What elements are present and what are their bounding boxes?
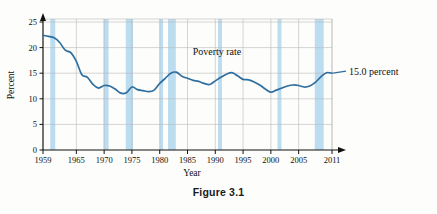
x-axis-tick-label: 1980 <box>151 155 168 165</box>
y-axis-tick-label: 20 <box>29 43 38 53</box>
axis-tick-labels-layer: 0510152025195919651970197519801985199019… <box>29 17 341 165</box>
series-label: Poverty rate <box>193 46 242 57</box>
x-axis-tick-label: 1995 <box>235 155 252 165</box>
x-axis-tick-label: 2005 <box>290 155 307 165</box>
x-axis-title: Year <box>183 168 201 178</box>
axis-ticks-layer <box>40 22 333 154</box>
axes-layer <box>40 13 346 153</box>
x-axis-tick-label: 1965 <box>68 155 85 165</box>
endpoint-label: 15.0 percent <box>349 66 399 77</box>
recession-band <box>160 19 163 150</box>
recession-band <box>315 19 324 150</box>
y-axis-arrow-icon <box>40 13 46 21</box>
x-axis-tick-label: 1959 <box>35 155 52 165</box>
x-axis-tick-label: 1975 <box>123 155 140 165</box>
x-axis-tick-label: 1970 <box>96 155 113 165</box>
recession-bands-layer <box>50 19 323 150</box>
figure-container: 0510152025195919651970197519801985199019… <box>0 0 437 214</box>
endpoint-leader-line <box>333 71 346 73</box>
x-axis-tick-label: 2011 <box>324 155 341 165</box>
y-axis-tick-label: 25 <box>29 17 38 27</box>
figure-caption: Figure 3.1 <box>0 186 437 198</box>
x-axis-tick-label: 2000 <box>262 155 279 165</box>
y-axis-tick-label: 10 <box>29 94 38 104</box>
x-axis-arrow-icon <box>338 147 346 153</box>
recession-band <box>218 19 222 150</box>
poverty-rate-line-chart: 0510152025195919651970197519801985199019… <box>0 0 437 214</box>
y-axis-tick-label: 5 <box>33 119 37 129</box>
recession-band <box>278 19 282 150</box>
y-axis-tick-label: 0 <box>33 145 37 155</box>
x-axis-tick-label: 1985 <box>179 155 196 165</box>
gridlines-layer <box>43 19 332 150</box>
y-axis-tick-label: 15 <box>29 68 38 78</box>
recession-band <box>168 19 176 150</box>
y-axis-title: Percent <box>6 70 16 99</box>
x-axis-tick-label: 1990 <box>207 155 224 165</box>
annotations-layer: Poverty rate15.0 percent <box>193 46 399 77</box>
